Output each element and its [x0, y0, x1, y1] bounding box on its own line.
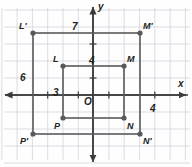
- x-axis-label: x: [178, 79, 184, 89]
- grid-lines: [2, 8, 190, 163]
- vertex-dot-N-prime: [137, 131, 142, 136]
- figure-svg: [0, 0, 192, 167]
- vertex-label-M: M: [127, 55, 135, 64]
- coordinate-plane-figure: L′ M′ L M P N P′ N′ 7 6 4 3 4 y x O: [0, 0, 192, 167]
- vertex-label-M-prime: M′: [143, 22, 153, 31]
- dimension-label-inner-width: 4: [89, 56, 95, 66]
- vertex-label-L-prime: L′: [19, 22, 27, 31]
- vertex-dot-P-prime: [30, 131, 35, 136]
- vertex-dot-M: [121, 63, 126, 68]
- dimension-label-inner-height: 3: [53, 88, 59, 98]
- vertex-label-N: N: [127, 122, 134, 131]
- vertex-label-L: L: [53, 55, 59, 64]
- vertex-label-P-prime: P′: [20, 137, 28, 146]
- vertex-dot-L-prime: [30, 30, 35, 35]
- vertex-dot-N: [121, 115, 126, 120]
- origin-label: O: [84, 97, 92, 107]
- vertex-label-P: P: [54, 122, 60, 131]
- dimension-label-outer-height: 6: [20, 73, 26, 83]
- y-axis-label: y: [98, 2, 104, 12]
- vertex-dots: [30, 30, 142, 136]
- vertex-dot-P: [60, 115, 65, 120]
- dimension-label-outer-width: 7: [72, 22, 78, 32]
- vertex-dot-M-prime: [137, 30, 142, 35]
- vertex-dot-L: [60, 63, 65, 68]
- x-axis-tick-label-4: 4: [150, 104, 156, 114]
- vertex-label-N-prime: N′: [143, 137, 152, 146]
